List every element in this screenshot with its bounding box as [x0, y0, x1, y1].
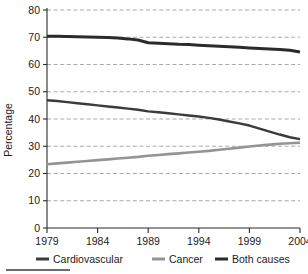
x-tick-label: 1979 — [35, 235, 59, 247]
x-tick-label: 1984 — [86, 235, 110, 247]
series-line-cardiovascular — [47, 100, 300, 139]
y-tick-label: 60 — [28, 58, 40, 70]
x-tick-label: 2004 — [288, 235, 308, 247]
x-tick-label: 1999 — [238, 235, 262, 247]
y-axis-ticks: 01020304050607080 — [28, 4, 47, 234]
y-tick-label: 20 — [28, 167, 40, 179]
y-tick-label: 50 — [28, 85, 40, 97]
y-tick-label: 70 — [28, 31, 40, 43]
y-axis-label: Percentage — [2, 103, 14, 157]
legend-label-both-causes: Both causes — [232, 253, 290, 265]
chart-legend: CardiovascularCancerBoth causes — [36, 253, 290, 265]
chart-figure: 01020304050607080 1979198419891994199920… — [0, 0, 308, 274]
y-tick-label: 40 — [28, 113, 40, 125]
gridlines — [47, 10, 300, 201]
line-chart-canvas: 01020304050607080 1979198419891994199920… — [0, 0, 308, 274]
legend-label-cancer: Cancer — [169, 253, 203, 265]
x-tick-label: 1994 — [187, 235, 211, 247]
series-line-both-causes — [47, 36, 300, 52]
chart-axes — [47, 8, 300, 228]
y-tick-label: 80 — [28, 4, 40, 16]
chart-series — [47, 36, 300, 164]
x-tick-label: 1989 — [137, 235, 161, 247]
y-tick-label: 10 — [28, 194, 40, 206]
y-tick-label: 0 — [34, 222, 40, 234]
x-axis-ticks: 197919841989199419992004 — [35, 228, 308, 247]
legend-label-cardiovascular: Cardiovascular — [53, 253, 124, 265]
y-tick-label: 30 — [28, 140, 40, 152]
